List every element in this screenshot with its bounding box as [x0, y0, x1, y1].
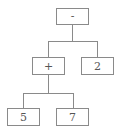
edge-plus-bar [23, 93, 73, 94]
node-five: 5 [7, 108, 40, 126]
node-plus: + [32, 57, 65, 75]
edge-plus-stem [48, 75, 49, 93]
edge-root-to-two [97, 41, 98, 57]
edge-plus-to-five [23, 93, 24, 108]
edge-root-bar [48, 41, 97, 42]
node-two: 2 [81, 57, 114, 75]
edge-plus-to-seven [73, 93, 74, 108]
node-seven: 7 [56, 108, 89, 126]
edge-root-stem [72, 25, 73, 41]
node-root-minus: - [56, 8, 89, 25]
edge-root-to-plus [48, 41, 49, 57]
